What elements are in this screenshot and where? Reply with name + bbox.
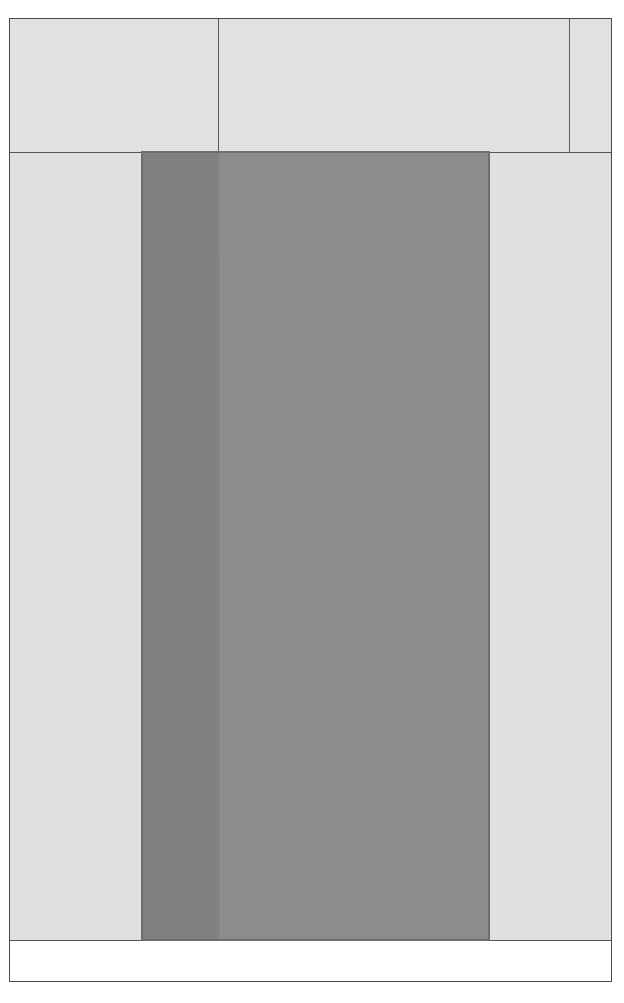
header-cell-right[interactable]: [570, 19, 611, 152]
footer-band: [10, 941, 611, 981]
header-band: [10, 19, 611, 153]
header-cell-left[interactable]: [10, 19, 219, 152]
selection-overlay[interactable]: [141, 151, 490, 941]
capture-root: [0, 0, 624, 1003]
selection-primary-column[interactable]: [143, 153, 219, 939]
header-cell-center[interactable]: [219, 19, 570, 152]
header-cell-left-label: [10, 19, 218, 31]
footer-band-label: [10, 941, 611, 953]
header-cell-right-label: [570, 19, 611, 31]
selection-secondary-label: [219, 153, 488, 165]
selection-secondary-column[interactable]: [219, 153, 488, 939]
header-cell-center-label: [219, 19, 569, 31]
selection-primary-label: [143, 153, 219, 165]
document-frame: [9, 18, 612, 982]
